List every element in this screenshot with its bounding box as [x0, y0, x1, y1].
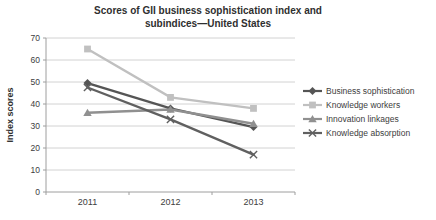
- legend-label-knowledge-workers: Knowledge workers: [326, 100, 400, 110]
- x-tick-label: 2013: [243, 197, 263, 207]
- y-tick-label: 0: [35, 187, 40, 197]
- chart-title-line1: Scores of GII business sophistication in…: [94, 5, 322, 16]
- legend-label-business-sophistication: Business sophistication: [326, 86, 415, 96]
- legend-label-knowledge-absorption: Knowledge absorption: [326, 128, 410, 138]
- y-tick-label: 30: [31, 121, 41, 131]
- y-tick-label: 60: [31, 55, 41, 65]
- y-tick-label: 20: [31, 143, 41, 153]
- diamond-marker: [309, 87, 317, 95]
- square-marker: [250, 105, 257, 112]
- chart-title: Scores of GII business sophistication in…: [40, 4, 376, 30]
- y-axis-title: Index scores: [5, 83, 15, 147]
- legend-label-innovation-linkages: Innovation linkages: [326, 114, 399, 124]
- chart-title-line2: subindices—United States: [145, 18, 271, 29]
- diamond-marker: [84, 79, 92, 87]
- x-tick-label: 2012: [160, 197, 180, 207]
- square-marker: [309, 102, 316, 109]
- y-tick-label: 10: [31, 165, 41, 175]
- line-chart: 010203040506070201120122013Business soph…: [0, 0, 436, 220]
- y-tick-label: 40: [31, 99, 41, 109]
- square-marker: [167, 94, 174, 101]
- square-marker: [84, 46, 91, 53]
- x-tick-label: 2011: [78, 197, 97, 207]
- chart-container: Scores of GII business sophistication in…: [0, 0, 436, 220]
- y-tick-label: 70: [31, 33, 41, 43]
- y-tick-label: 50: [31, 77, 41, 87]
